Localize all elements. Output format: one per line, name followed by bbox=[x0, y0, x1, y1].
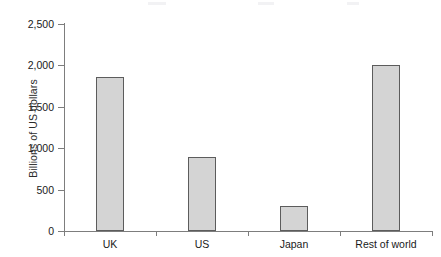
bar-japan[interactable] bbox=[280, 206, 308, 231]
bar-uk[interactable] bbox=[96, 77, 124, 231]
x-axis-tick bbox=[432, 231, 433, 236]
bar-chart-figure: Billions of US dollars 2,500 2,000 1,500… bbox=[0, 0, 441, 257]
x-axis-label-uk: UK bbox=[64, 238, 156, 250]
x-axis-tick bbox=[156, 231, 157, 236]
bar-us[interactable] bbox=[188, 157, 216, 231]
x-axis-label-japan: Japan bbox=[248, 238, 340, 250]
scan-artifact bbox=[148, 2, 166, 5]
y-tick-label: 2,000 bbox=[2, 59, 54, 71]
x-axis-tick bbox=[340, 231, 341, 236]
y-tick-label: 1,000 bbox=[2, 142, 54, 154]
x-axis-label-us: US bbox=[156, 238, 248, 250]
y-axis-tick-group: 2,500 2,000 1,500 1,000 500 0 bbox=[0, 0, 64, 257]
scan-artifact bbox=[347, 2, 359, 5]
x-axis-tick bbox=[64, 231, 65, 236]
x-axis-tick bbox=[248, 231, 249, 236]
y-tick-label: 0 bbox=[2, 225, 54, 237]
bar-rest-of-world[interactable] bbox=[372, 65, 400, 231]
y-tick-label: 2,500 bbox=[2, 18, 54, 30]
x-axis-label-rest-of-world: Rest of world bbox=[340, 238, 432, 250]
y-tick-label: 1,500 bbox=[2, 101, 54, 113]
y-tick-label: 500 bbox=[2, 184, 54, 196]
bars-layer bbox=[64, 23, 433, 231]
scan-artifact bbox=[258, 2, 274, 5]
